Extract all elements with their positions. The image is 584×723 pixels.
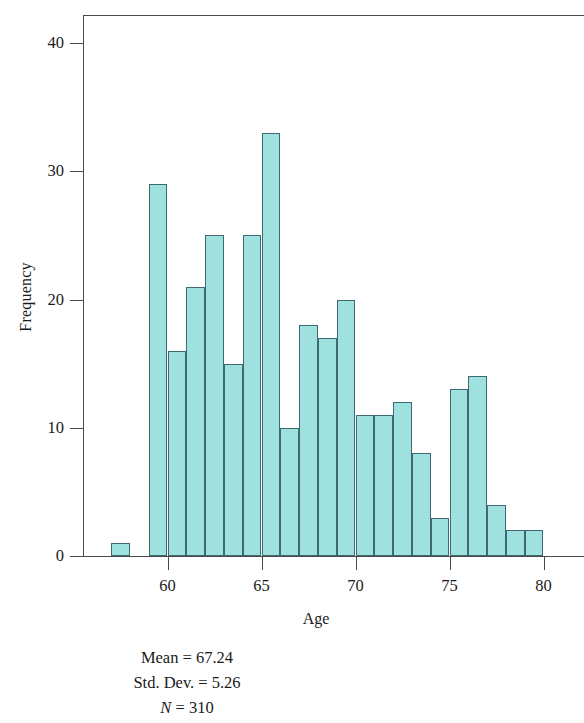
histogram-bar [450, 389, 469, 556]
histogram-bar [186, 287, 205, 556]
mean-label: Mean = 67.24 [42, 645, 332, 670]
x-axis-tick-label: 75 [427, 578, 473, 595]
x-axis-tick [544, 557, 545, 570]
x-axis-tick-label: 60 [145, 578, 191, 595]
y-axis-tick [70, 556, 83, 557]
statistics-annotation: Mean = 67.24 Std. Dev. = 5.26 N = 310 [42, 645, 332, 720]
histogram-bar [412, 453, 431, 556]
histogram-bar [468, 376, 487, 556]
y-axis-tick-label: 10 [22, 420, 64, 437]
y-axis-tick-label: 0 [22, 548, 64, 565]
histogram-bar [280, 428, 299, 556]
x-axis-tick [356, 557, 357, 570]
histogram-bar [487, 505, 506, 556]
y-axis-tick [70, 171, 83, 172]
histogram-bar [374, 415, 393, 556]
histogram-bar [506, 530, 525, 556]
x-axis-tick-label: 80 [521, 578, 567, 595]
histogram-bar [224, 364, 243, 556]
x-axis-tick [168, 557, 169, 570]
histogram-bar [168, 351, 187, 556]
y-axis-title: Frequency [17, 227, 35, 367]
y-axis-tick [70, 43, 83, 44]
histogram-bar [149, 184, 168, 556]
histogram-bar [111, 543, 130, 556]
x-axis-tick [450, 557, 451, 570]
histogram-bar [299, 325, 318, 556]
histogram-bar [393, 402, 412, 556]
y-axis-tick-label: 30 [22, 163, 64, 180]
histogram-bar [205, 235, 224, 556]
x-axis-tick-label: 65 [239, 578, 285, 595]
x-axis-tick [262, 557, 263, 570]
std-dev-label: Std. Dev. = 5.26 [42, 670, 332, 695]
y-axis-tick [70, 428, 83, 429]
n-value: = 310 [171, 698, 213, 717]
histogram-bar [356, 415, 375, 556]
n-symbol: N [160, 698, 171, 717]
x-axis-title: Age [0, 610, 584, 628]
x-axis-tick-label: 70 [333, 578, 379, 595]
histogram-bar [431, 518, 450, 556]
n-label: N = 310 [42, 695, 332, 720]
histogram-bar [337, 300, 356, 557]
histogram-bar [318, 338, 337, 556]
histogram-bar [525, 530, 544, 556]
y-axis-tick [70, 300, 83, 301]
y-axis-tick-label: 40 [22, 35, 64, 52]
histogram-figure: 010203040 6065707580 Frequency Age Mean … [0, 0, 584, 723]
histogram-bar [262, 133, 281, 556]
histogram-bar [243, 235, 262, 556]
